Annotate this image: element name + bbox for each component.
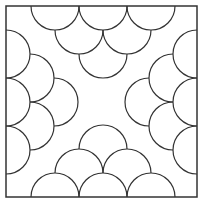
scale-arc [55, 30, 103, 54]
scale-arc [6, 30, 30, 78]
scale-arc [54, 78, 78, 126]
scale-arc [127, 173, 175, 197]
scale-arc [127, 6, 175, 30]
scale-arc [55, 149, 103, 173]
scale-arc [79, 125, 127, 149]
scale-arc [149, 54, 173, 102]
scale-pattern-figure [0, 0, 214, 212]
scale-arc [149, 102, 173, 150]
scale-arc [79, 173, 127, 197]
scale-arc [30, 102, 54, 150]
scale-arc [6, 78, 30, 126]
scale-arc [173, 30, 197, 78]
scale-arc [103, 30, 151, 54]
fish-scale-arcs [6, 6, 197, 197]
scale-arc [103, 149, 151, 173]
scale-arc [173, 126, 197, 174]
scale-arc [30, 54, 54, 102]
scale-arc [173, 78, 197, 126]
scale-arc [79, 54, 127, 78]
scale-arc [31, 6, 79, 30]
scale-arc [125, 78, 149, 126]
scale-arc [79, 6, 127, 30]
scale-arc [6, 126, 30, 174]
scale-arc [31, 173, 79, 197]
